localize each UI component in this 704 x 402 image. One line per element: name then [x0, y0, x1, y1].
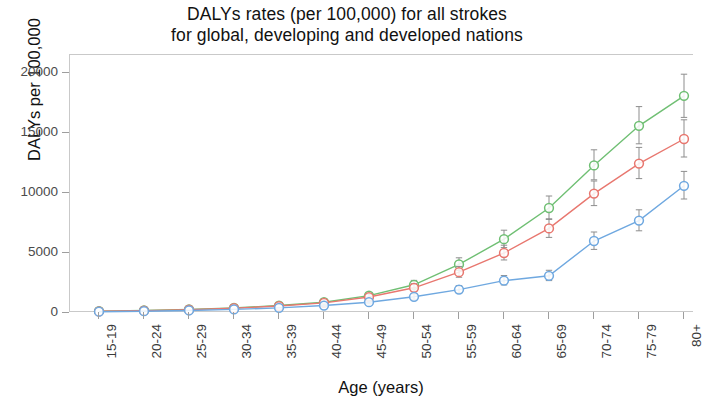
data-point-marker: [500, 276, 509, 285]
x-tick-mark: [278, 312, 279, 319]
x-tick-label: 60-64: [509, 324, 524, 359]
x-tick-mark: [368, 312, 369, 319]
x-tick-label: 65-69: [554, 324, 569, 359]
data-point-marker: [500, 249, 509, 258]
y-tick-mark: [62, 72, 69, 73]
y-tick-label: 0: [0, 305, 58, 319]
x-tick-label: 55-59: [464, 324, 479, 359]
series-developing: [95, 74, 689, 315]
x-tick-mark: [638, 312, 639, 319]
data-point-marker: [275, 303, 284, 312]
data-point-marker: [635, 216, 644, 225]
data-point-marker: [320, 301, 329, 310]
data-point-marker: [635, 159, 644, 168]
series-developed: [95, 171, 689, 316]
y-tick-mark: [62, 312, 69, 313]
x-tick-mark: [458, 312, 459, 319]
x-axis-title: Age (years): [69, 378, 693, 397]
chart-title-line-1: DALYs rates (per 100,000) for all stroke…: [0, 4, 694, 25]
x-tick-mark: [413, 312, 414, 319]
y-tick-label: 5000: [0, 245, 58, 259]
y-tick-label: 15000: [0, 125, 58, 139]
x-tick-mark: [503, 312, 504, 319]
data-point-marker: [545, 224, 554, 233]
x-tick-label: 75-79: [644, 324, 659, 359]
data-point-marker: [635, 121, 644, 130]
y-tick-mark: [62, 132, 69, 133]
y-tick-label: 20000: [0, 65, 58, 79]
series-canvas: [70, 55, 694, 313]
x-tick-label: 80+: [689, 324, 704, 347]
plot-area: [69, 54, 693, 312]
x-tick-mark: [98, 312, 99, 319]
x-tick-label: 40-44: [329, 324, 344, 359]
data-point-marker: [410, 283, 419, 292]
data-point-marker: [680, 91, 689, 100]
data-point-marker: [545, 271, 554, 280]
y-tick-label: 10000: [0, 185, 58, 199]
data-point-marker: [680, 181, 689, 190]
data-point-marker: [500, 235, 509, 244]
x-tick-label: 20-24: [149, 324, 164, 359]
x-tick-label: 15-19: [104, 324, 119, 359]
x-tick-label: 25-29: [194, 324, 209, 359]
x-tick-mark: [188, 312, 189, 319]
x-tick-label: 35-39: [284, 324, 299, 359]
y-tick-mark: [62, 252, 69, 253]
data-point-marker: [95, 307, 104, 316]
series-global: [95, 120, 689, 316]
data-point-marker: [590, 237, 599, 246]
series-line: [99, 96, 684, 311]
x-tick-mark: [593, 312, 594, 319]
data-point-marker: [410, 292, 419, 301]
x-tick-label: 45-49: [374, 324, 389, 359]
data-point-marker: [590, 161, 599, 170]
data-point-marker: [545, 204, 554, 213]
x-tick-mark: [683, 312, 684, 319]
data-point-marker: [680, 135, 689, 144]
y-tick-mark: [62, 192, 69, 193]
x-tick-mark: [233, 312, 234, 319]
data-point-marker: [230, 305, 239, 314]
data-point-marker: [590, 189, 599, 198]
chart-title: DALYs rates (per 100,000) for all stroke…: [0, 4, 694, 46]
data-point-marker: [455, 285, 464, 294]
data-point-marker: [365, 298, 374, 307]
x-tick-mark: [323, 312, 324, 319]
data-point-marker: [140, 307, 149, 316]
x-tick-mark: [548, 312, 549, 319]
x-tick-mark: [143, 312, 144, 319]
x-tick-label: 50-54: [419, 324, 434, 359]
x-tick-label: 70-74: [599, 324, 614, 359]
data-point-marker: [455, 268, 464, 277]
x-tick-label: 30-34: [239, 324, 254, 359]
chart-title-line-2: for global, developing and developed nat…: [0, 25, 694, 46]
data-point-marker: [185, 306, 194, 315]
